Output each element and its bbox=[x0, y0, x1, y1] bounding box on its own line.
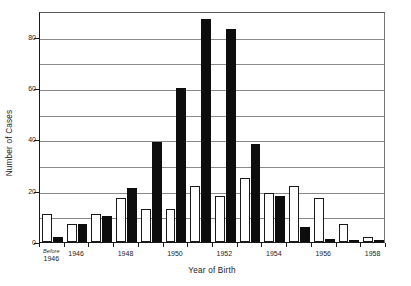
chart-figure: Number of Cases 020406080 Before19461946… bbox=[0, 0, 411, 286]
bar-filled bbox=[201, 19, 211, 242]
bar-open bbox=[91, 214, 101, 242]
x-tick-label: 1952 bbox=[217, 250, 233, 257]
x-tick-label-line2: 1952 bbox=[217, 250, 233, 257]
x-tick-mark bbox=[39, 243, 40, 247]
x-tick-mark bbox=[261, 243, 262, 247]
x-tick-mark bbox=[187, 243, 188, 247]
x-tick-mark bbox=[64, 243, 65, 247]
x-tick-mark bbox=[237, 243, 238, 247]
y-tick-label: 40 bbox=[16, 136, 36, 143]
x-tick-mark bbox=[113, 243, 114, 247]
x-tick-mark bbox=[212, 243, 213, 247]
x-tick-mark bbox=[88, 243, 89, 247]
x-tick-mark bbox=[311, 243, 312, 247]
bar-open bbox=[264, 193, 274, 242]
x-tick-mark bbox=[360, 243, 361, 247]
x-tick-label-line1: Before bbox=[43, 248, 59, 254]
bar-open bbox=[116, 198, 126, 242]
bar-open bbox=[190, 186, 200, 242]
bar-open bbox=[166, 209, 176, 242]
x-tick-label: Before1946 bbox=[43, 248, 59, 262]
bar-open bbox=[215, 196, 225, 242]
x-tick-label: 1950 bbox=[167, 250, 183, 257]
bar-open bbox=[339, 224, 349, 242]
x-tick-label-line2: 1946 bbox=[43, 255, 59, 262]
x-tick-label-line2: 1956 bbox=[315, 250, 331, 257]
bar-filled bbox=[300, 227, 310, 242]
y-tick-label: 0 bbox=[16, 239, 36, 246]
bar-filled bbox=[349, 240, 359, 242]
x-tick-label: 1948 bbox=[118, 250, 134, 257]
x-tick-mark bbox=[286, 243, 287, 247]
bar-series-container bbox=[40, 13, 384, 242]
bar-filled bbox=[127, 188, 137, 242]
y-tick-label: 60 bbox=[16, 85, 36, 92]
bar-open bbox=[240, 178, 250, 242]
x-tick-label-line2: 1954 bbox=[266, 250, 282, 257]
y-tick-label: 80 bbox=[16, 34, 36, 41]
x-tick-mark bbox=[138, 243, 139, 247]
plot-area bbox=[39, 12, 385, 243]
bar-filled bbox=[152, 142, 162, 242]
y-tick-label: 20 bbox=[16, 188, 36, 195]
bar-filled bbox=[251, 144, 261, 242]
bar-filled bbox=[102, 216, 112, 242]
bar-open bbox=[289, 186, 299, 242]
bar-filled bbox=[176, 88, 186, 242]
bar-open bbox=[314, 198, 324, 242]
bar-filled bbox=[53, 237, 63, 242]
x-tick-label-line2: 1946 bbox=[68, 250, 84, 257]
x-tick-label: 1946 bbox=[68, 250, 84, 257]
x-axis-title: Year of Birth bbox=[39, 266, 385, 275]
bar-filled bbox=[275, 196, 285, 242]
x-tick-label-line2: 1958 bbox=[365, 250, 381, 257]
x-tick-label-line2: 1950 bbox=[167, 250, 183, 257]
x-tick-mark bbox=[163, 243, 164, 247]
bar-filled bbox=[374, 240, 384, 242]
x-tick-label: 1958 bbox=[365, 250, 381, 257]
x-tick-label: 1956 bbox=[315, 250, 331, 257]
x-tick-label-line2: 1948 bbox=[118, 250, 134, 257]
bar-open bbox=[141, 209, 151, 242]
bar-open bbox=[42, 214, 52, 242]
bar-open bbox=[67, 224, 77, 242]
x-tick-mark bbox=[336, 243, 337, 247]
x-tick-label: 1954 bbox=[266, 250, 282, 257]
bar-filled bbox=[78, 224, 88, 242]
bar-open bbox=[363, 237, 373, 242]
bar-filled bbox=[325, 239, 335, 242]
bar-filled bbox=[226, 29, 236, 242]
x-tick-mark bbox=[385, 243, 386, 247]
